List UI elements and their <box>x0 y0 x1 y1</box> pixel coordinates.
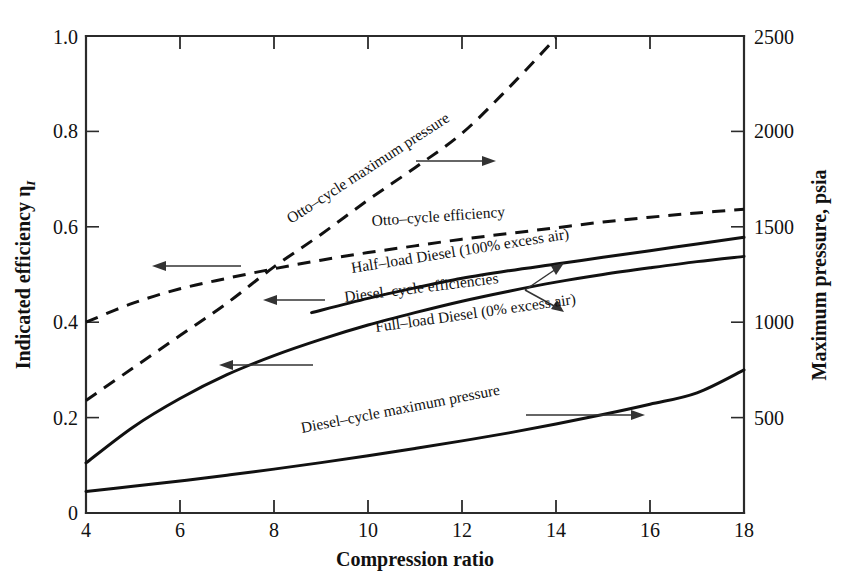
chart-svg: 4 6 8 10 12 14 16 18 Compression ratio 0… <box>0 0 847 584</box>
y2-tick-label: 1000 <box>754 311 794 333</box>
plot-frame <box>86 36 744 513</box>
y-tick-label: 1.0 <box>53 26 78 48</box>
x-tick-label: 16 <box>640 519 660 541</box>
x-axis-title: Compression ratio <box>336 548 494 571</box>
x-tick-label: 4 <box>81 519 91 541</box>
x-tick-label: 18 <box>734 519 754 541</box>
y-tick-labels-left: 0 0.2 0.4 0.6 0.8 1.0 <box>53 26 78 524</box>
x-tick-labels: 4 6 8 10 12 14 16 18 <box>81 519 754 541</box>
y-axis-title-subscript: I <box>23 180 38 187</box>
y2-tick-label: 2500 <box>754 26 794 48</box>
y-axis-ticks-right <box>731 36 744 418</box>
x-tick-label: 6 <box>175 519 185 541</box>
y-axis-ticks-left <box>86 36 99 513</box>
y2-axis-title-group: Maximum pressure, psia <box>808 170 831 381</box>
y-tick-label: 0.8 <box>53 120 78 142</box>
y-axis-title-group: Indicated efficiency ηI <box>12 180 38 370</box>
y2-axis-title: Maximum pressure, psia <box>808 170 831 381</box>
x-tick-label: 10 <box>358 519 378 541</box>
y-tick-label: 0.4 <box>53 311 78 333</box>
arrow-left-otto-efficiency <box>152 261 241 271</box>
annotation-diesel-cycle-maximum-pressure: Diesel–cycle maximum pressure <box>299 381 501 436</box>
x-tick-label: 14 <box>546 519 566 541</box>
curve-diesel-cycle-maximum-pressure <box>86 370 744 492</box>
y-axis-title-text: Indicated efficiency η <box>12 186 35 370</box>
y-tick-label: 0.6 <box>53 216 78 238</box>
y-tick-label: 0 <box>68 502 78 524</box>
x-tick-label: 12 <box>452 519 472 541</box>
arrow-left-full-load-diesel <box>219 360 313 370</box>
x-tick-label: 8 <box>269 519 279 541</box>
y-tick-labels-right: 500 1000 1500 2000 2500 <box>754 26 794 429</box>
arrow-left-diesel-efficiencies <box>263 295 325 305</box>
y-axis-title: Indicated efficiency ηI <box>12 180 38 370</box>
y2-tick-label: 2000 <box>754 120 794 142</box>
y2-tick-label: 1500 <box>754 216 794 238</box>
x-axis-ticks-top <box>180 36 650 49</box>
y-tick-label: 0.2 <box>53 407 78 429</box>
chart-figure: 4 6 8 10 12 14 16 18 Compression ratio 0… <box>0 0 847 584</box>
annotation-half-load-diesel: Half–load Diesel (100% excess air) <box>350 225 570 277</box>
annotation-otto-cycle-efficiency: Otto–cycle efficiency <box>371 203 506 229</box>
x-axis-ticks <box>86 500 744 513</box>
y2-tick-label: 500 <box>754 407 784 429</box>
